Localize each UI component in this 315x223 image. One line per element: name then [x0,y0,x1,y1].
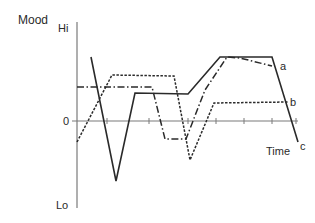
x-axis-title: Time [266,145,290,157]
mood-over-time-chart: Mood Hi 0 Lo Time a b c [0,0,315,223]
series-c-label: c [300,140,306,152]
chart-plot-area [0,0,315,223]
y-tick-hi: Hi [58,22,68,34]
y-axis-title: Mood [18,14,48,26]
series-a-label: a [280,60,286,72]
y-tick-lo: Lo [56,199,68,211]
series-a-line [77,57,272,139]
y-tick-zero: 0 [63,115,69,127]
series-b-label: b [290,96,296,108]
